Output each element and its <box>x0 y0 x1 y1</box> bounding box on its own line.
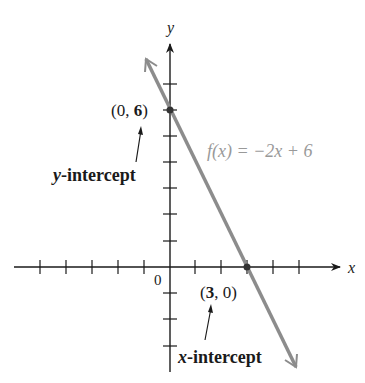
x-axis-label: x <box>347 259 355 276</box>
function-label: f(x) = −2x + 6 <box>207 141 312 162</box>
y-intercept-arrow <box>136 126 143 162</box>
origin-label: 0 <box>154 272 162 288</box>
x-intercept-label: x-intercept <box>177 347 262 367</box>
x-intercept-dot <box>244 264 251 271</box>
y-intercept-dot <box>167 107 174 114</box>
x-intercept-arrow <box>205 304 213 340</box>
y-intercept-point-label: (0, 6) <box>111 101 148 120</box>
x-axis <box>14 260 340 274</box>
function-line <box>145 59 297 367</box>
x-intercept-point-label: (3, 0) <box>200 283 237 302</box>
y-axis-label: y <box>165 19 175 37</box>
y-intercept-label: y-intercept <box>51 165 136 185</box>
graph: y x 0 (0, 6) y-intercept f(x) = −2x + 6 … <box>0 0 365 383</box>
y-axis <box>163 44 177 372</box>
